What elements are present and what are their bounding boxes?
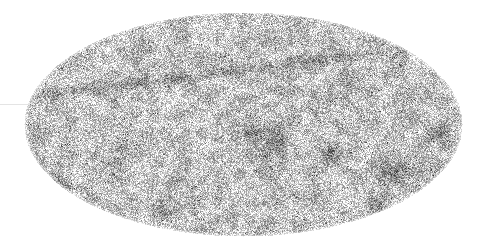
edge-artifact-line <box>0 104 30 105</box>
sky-map <box>0 0 483 245</box>
